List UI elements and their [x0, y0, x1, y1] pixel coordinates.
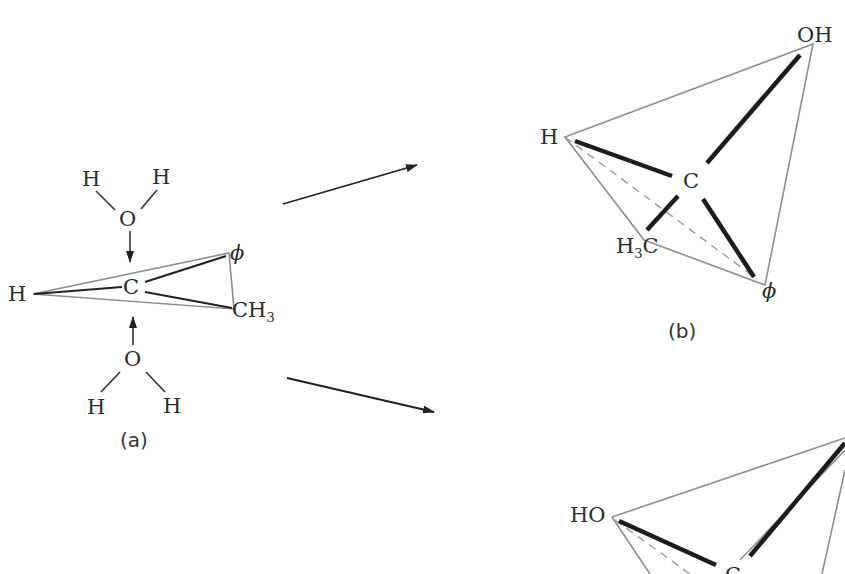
- tetrahedron-edge: [612, 438, 845, 517]
- atom-h3c: H3C: [616, 234, 659, 261]
- atom-ch3: CH3: [232, 298, 275, 325]
- atom-h: H: [540, 125, 558, 149]
- atom-c: C: [123, 275, 139, 299]
- panel-c: HO C: [570, 438, 845, 574]
- bond-line: [145, 256, 226, 282]
- wedge-bond: [619, 521, 716, 565]
- wedge-bond: [575, 141, 672, 176]
- atom-c: C: [725, 563, 741, 574]
- wedge-bond: [647, 196, 678, 230]
- atom-phenyl: ϕ: [230, 241, 244, 265]
- water-bottom: O H H: [87, 317, 181, 419]
- atom-h: H: [87, 395, 105, 419]
- caption-a: (a): [120, 428, 148, 452]
- bond-line: [101, 372, 120, 392]
- bond-line: [146, 372, 165, 392]
- reaction-diagram: H H O H C ϕ CH3 O H H (a): [0, 0, 845, 574]
- hidden-edge: [565, 137, 757, 279]
- water-top: H H O: [82, 165, 170, 262]
- panel-a: H H O H C ϕ CH3 O H H (a): [8, 165, 275, 452]
- atom-h: H: [8, 282, 26, 306]
- atom-oh: OH: [797, 23, 833, 47]
- atom-phenyl: ϕ: [762, 279, 776, 303]
- atom-ho: HO: [570, 503, 606, 527]
- caption-b: (b): [668, 319, 696, 343]
- bond-line: [96, 191, 115, 210]
- wedge-bond: [707, 55, 800, 163]
- bond-line: [141, 190, 157, 209]
- atom-o: O: [119, 207, 136, 231]
- reaction-arrow-icon: [287, 378, 434, 412]
- atom-h: H: [82, 167, 100, 191]
- atom-h: H: [163, 394, 181, 418]
- atom-o: O: [124, 347, 141, 371]
- reaction-arrow-icon: [283, 165, 417, 204]
- atom-h: H: [152, 165, 170, 189]
- panel-b: OH H C H3C ϕ (b): [540, 23, 833, 343]
- tetrahedron-edge: [822, 470, 845, 574]
- atom-c: C: [683, 169, 699, 193]
- wedge-bond: [750, 443, 845, 556]
